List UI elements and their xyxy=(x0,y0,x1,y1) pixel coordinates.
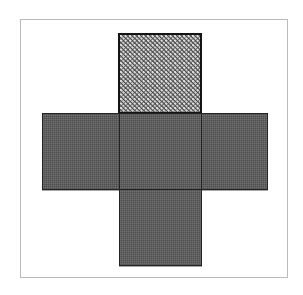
square-bottom xyxy=(119,189,202,266)
figure-root: A plus-shaped arrangement of five equal … xyxy=(0,0,303,295)
cube-net-shape xyxy=(0,0,303,295)
square-left xyxy=(42,113,120,190)
square-top xyxy=(118,33,202,114)
square-right xyxy=(201,113,268,190)
square-center xyxy=(119,113,202,190)
